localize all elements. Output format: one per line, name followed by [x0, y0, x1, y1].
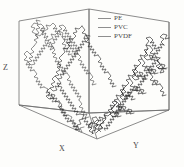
legend-label-pe: PE	[114, 14, 122, 22]
figure-3d-polymer-chains: Z X Y PE PVC PVDF	[0, 0, 184, 167]
legend-swatch-pvdf	[98, 36, 111, 37]
legend-item-pvdf[interactable]: PVDF	[98, 32, 142, 40]
legend-label-pvdf: PVDF	[114, 32, 132, 40]
legend: PE PVC PVDF	[98, 14, 142, 41]
legend-item-pe[interactable]: PE	[98, 14, 142, 22]
chain-pvdf	[88, 34, 169, 136]
legend-swatch-pe	[98, 18, 111, 19]
chain-pe	[24, 20, 96, 133]
plot-canvas	[0, 0, 184, 167]
axis-label-x: X	[59, 145, 65, 153]
axis-label-z: Z	[3, 64, 8, 72]
axis-label-y: Y	[133, 142, 139, 150]
legend-item-pvc[interactable]: PVC	[98, 23, 142, 31]
legend-swatch-pvc	[98, 27, 111, 28]
chain-pvc	[46, 26, 116, 130]
legend-label-pvc: PVC	[114, 23, 128, 31]
